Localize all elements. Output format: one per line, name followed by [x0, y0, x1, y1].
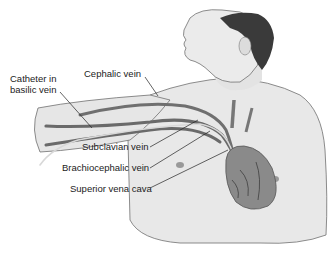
- left-nipple: [176, 162, 184, 168]
- label-brachiocephalic-vein: Brachiocephalic vein: [62, 162, 149, 173]
- label-subclavian-vein: Subclavian vein: [82, 141, 149, 152]
- label-catheter: Catheter in basilic vein: [10, 73, 56, 95]
- anatomy-illustration: [0, 0, 336, 256]
- label-catheter-line1: Catheter in: [10, 73, 56, 84]
- label-cephalic-vein: Cephalic vein: [84, 68, 141, 79]
- label-catheter-line2: basilic vein: [10, 84, 56, 95]
- label-superior-vena-cava: Superior vena cava: [70, 183, 152, 194]
- ear: [239, 37, 251, 55]
- jugular-vein: [232, 100, 234, 128]
